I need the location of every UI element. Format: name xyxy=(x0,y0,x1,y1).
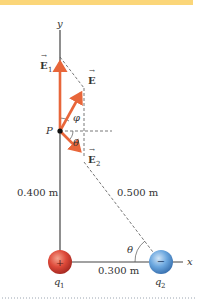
point-p-label: P xyxy=(45,125,53,136)
y-axis-label: y xyxy=(56,18,63,29)
distance-vertical-label: 0.400 m xyxy=(17,187,59,198)
dashed-e1-to-e xyxy=(60,57,84,88)
theta-q2-label: θ xyxy=(127,244,133,255)
svg-text:E: E xyxy=(40,60,48,71)
label-q2: q 2 xyxy=(155,276,165,290)
label-q1: q 1 xyxy=(54,276,64,290)
charge-q2: − xyxy=(149,250,173,274)
distance-hypotenuse-label: 0.500 m xyxy=(117,187,159,198)
point-p xyxy=(57,128,62,133)
phi-label: φ xyxy=(73,112,80,123)
distance-horizontal-label: 0.300 m xyxy=(98,265,140,276)
vector-arrow-mark: → xyxy=(41,52,47,60)
svg-text:E: E xyxy=(88,75,96,86)
svg-text:2: 2 xyxy=(96,160,100,168)
label-e: E → xyxy=(88,67,96,86)
x-axis-label: x xyxy=(187,256,193,267)
svg-text:1: 1 xyxy=(60,282,64,290)
vector-arrow-mark: → xyxy=(89,146,95,154)
vector-arrow-mark: → xyxy=(89,67,95,75)
svg-text:1: 1 xyxy=(48,66,52,74)
electric-field-diagram: + − y x E 1 → E → E 2 → P φ θ θ 0.400 m … xyxy=(0,0,206,302)
q2-sign: − xyxy=(157,256,165,267)
label-e1: E 1 → xyxy=(40,52,52,74)
theta-p-label: θ xyxy=(73,137,79,148)
svg-text:2: 2 xyxy=(161,282,165,290)
q1-sign: + xyxy=(56,257,64,268)
svg-text:E: E xyxy=(88,154,96,165)
dashed-hypotenuse xyxy=(84,162,156,256)
theta-arc-q2 xyxy=(135,241,145,262)
charge-q1: + xyxy=(48,250,72,274)
label-e2: E 2 → xyxy=(88,146,100,168)
